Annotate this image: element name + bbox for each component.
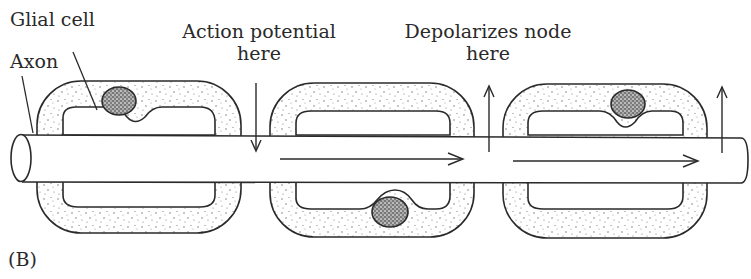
depolarizes-line1: Depolarizes node (402, 20, 574, 42)
axon-cut-end (11, 135, 31, 182)
nucleus-2 (372, 197, 408, 227)
depolarizes-line2: here (402, 42, 574, 64)
diagram-svg (0, 0, 751, 279)
action-potential-line2: here (178, 42, 340, 64)
nucleus-1 (102, 87, 136, 115)
depolarizes-label: Depolarizes node here (402, 20, 574, 64)
nucleus-3 (611, 90, 645, 118)
myelinated-axon-diagram: Glial cell Axon Action potential here De… (0, 0, 751, 279)
axon-label: Axon (10, 50, 58, 72)
glial-cell-label: Glial cell (10, 8, 95, 30)
panel-label: (B) (8, 248, 37, 270)
action-potential-label: Action potential here (178, 20, 340, 64)
action-potential-line1: Action potential (178, 20, 340, 42)
axon-pointer (22, 76, 33, 133)
